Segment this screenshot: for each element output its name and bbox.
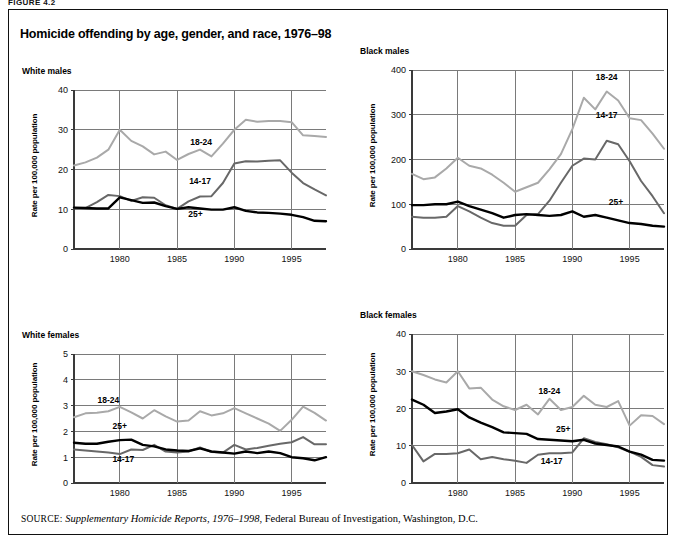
y-tick-label: 3 (63, 401, 68, 411)
chart-white-females: 012345198019851990199518-2414-1725+ (22, 330, 332, 505)
y-tick-label: 20 (396, 404, 406, 414)
y-tick-label: 100 (391, 200, 406, 210)
series-label-25+: 25+ (188, 209, 202, 219)
y-tick-label: 30 (396, 367, 406, 377)
series-line-14-17 (74, 437, 326, 454)
x-tick-label: 1980 (110, 488, 130, 498)
chart-black-males: 0100200300400198019851990199518-2414-172… (360, 46, 670, 271)
series-label-14-17: 14-17 (112, 454, 134, 464)
y-tick-label: 300 (391, 110, 406, 120)
y-tick-label: 5 (63, 349, 68, 359)
x-tick-label: 1985 (167, 488, 187, 498)
series-label-14-17: 14-17 (596, 110, 618, 120)
series-label-18-24: 18-24 (190, 137, 212, 147)
chart-panel-white-females: White females 012345198019851990199518-2… (22, 330, 332, 505)
x-tick-label: 1990 (224, 488, 244, 498)
x-tick-label: 1995 (282, 488, 302, 498)
x-tick-label: 1980 (110, 254, 130, 264)
y-axis-label: Rate per 100,000 population (368, 330, 377, 479)
y-tick-label: 10 (396, 441, 406, 451)
y-tick-label: 0 (401, 244, 406, 254)
y-tick-label: 10 (58, 205, 68, 215)
x-tick-label: 1985 (167, 254, 187, 264)
figure-root: FIGURE 4.2 Homicide offending by age, ge… (0, 0, 676, 544)
x-tick-label: 1990 (562, 254, 582, 264)
chart-panel-black-females: Black females 01020304019801985199019951… (360, 310, 670, 505)
y-tick-label: 200 (391, 155, 406, 165)
y-axis-label: Rate per 100,000 population (30, 86, 39, 245)
y-tick-label: 0 (63, 244, 68, 254)
y-tick-label: 2 (63, 427, 68, 437)
x-tick-label: 1990 (224, 254, 244, 264)
chart-black-females: 010203040198019851990199518-2414-1725+ (360, 310, 670, 505)
x-tick-label: 1990 (562, 488, 582, 498)
y-tick-label: 1 (63, 453, 68, 463)
source-publisher: , Federal Bureau of Investigation, Washi… (259, 513, 478, 524)
series-line-14-17 (412, 438, 664, 466)
y-tick-label: 400 (391, 65, 406, 75)
x-tick-label: 1980 (448, 254, 468, 264)
source-note: SOURCE: Supplementary Homicide Reports, … (21, 513, 478, 524)
series-label-18-24: 18-24 (539, 386, 561, 396)
source-title: Supplementary Homicide Reports, 1976–199… (65, 513, 259, 524)
series-label-14-17: 14-17 (541, 456, 563, 466)
chart-panel-black-males: Black males 0100200300400198019851990199… (360, 46, 670, 271)
x-tick-label: 1995 (282, 254, 302, 264)
y-tick-label: 20 (58, 165, 68, 175)
chart-panel-white-males: White males 010203040198019851990199518-… (22, 66, 332, 271)
series-label-25+: 25+ (609, 197, 623, 207)
chart-white-males: 010203040198019851990199518-2414-1725+ (22, 66, 332, 271)
series-label-25+: 25+ (556, 424, 570, 434)
y-axis-label: Rate per 100,000 population (30, 350, 39, 479)
y-tick-label: 0 (63, 478, 68, 488)
source-prefix: SOURCE: (21, 514, 63, 524)
y-tick-label: 30 (58, 125, 68, 135)
series-line-18-24 (412, 371, 664, 425)
series-line-18-24 (412, 91, 664, 191)
figure-title: Homicide offending by age, gender, and r… (20, 27, 331, 41)
series-label-14-17: 14-17 (189, 176, 211, 186)
series-label-25+: 25+ (113, 421, 127, 431)
x-tick-label: 1985 (505, 488, 525, 498)
figure-number: FIGURE 4.2 (8, 0, 56, 7)
y-tick-label: 0 (401, 478, 406, 488)
x-tick-label: 1995 (620, 488, 640, 498)
x-tick-label: 1985 (505, 254, 525, 264)
y-tick-label: 4 (63, 375, 68, 385)
series-label-18-24: 18-24 (97, 395, 119, 405)
series-label-18-24: 18-24 (596, 72, 618, 82)
x-tick-label: 1980 (448, 488, 468, 498)
x-tick-label: 1995 (620, 254, 640, 264)
y-tick-label: 40 (396, 329, 406, 339)
y-axis-label: Rate per 100,000 population (368, 66, 377, 245)
y-tick-label: 40 (58, 85, 68, 95)
